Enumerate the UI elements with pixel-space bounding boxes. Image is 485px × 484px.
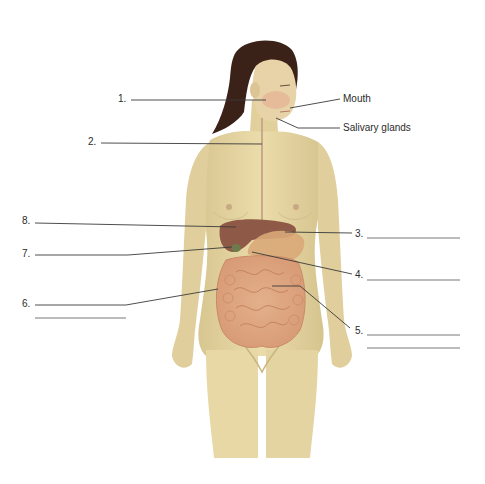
label-number-6: 6.: [22, 298, 30, 310]
label-salivary-glands: Salivary glands: [343, 122, 411, 134]
label-number-2: 2.: [88, 136, 96, 148]
label-number-8: 8.: [22, 215, 30, 227]
salivary-gland-region: [262, 91, 290, 109]
gallbladder: [231, 244, 241, 252]
label-mouth: Mouth: [343, 93, 371, 105]
label-number-1: 1.: [118, 93, 126, 105]
digestive-system-diagram: Mouth Salivary glands 1. 2. 3. 4. 5. 6. …: [0, 0, 485, 484]
leader-line-salivary: [276, 118, 340, 128]
leader-line-mouth: [290, 99, 340, 108]
figure-illustration: [0, 0, 485, 484]
label-number-5: 5.: [355, 325, 363, 337]
label-number-7: 7.: [22, 248, 30, 260]
intestines: [216, 256, 305, 348]
label-number-3: 3.: [355, 228, 363, 240]
label-number-4: 4.: [355, 269, 363, 281]
